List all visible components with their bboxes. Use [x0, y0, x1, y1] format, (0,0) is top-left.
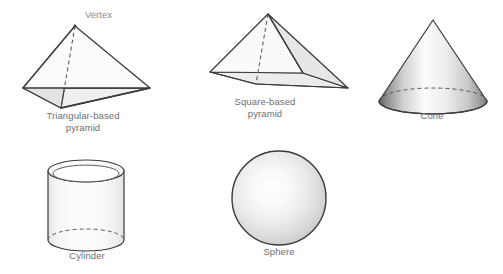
sphere-graphic — [232, 151, 326, 245]
solid-shapes-figure: Vertex Triangular-based pyramid Square-b… — [0, 0, 503, 274]
cone-label: Cone — [372, 110, 492, 122]
triangular-based-pyramid-graphic — [23, 25, 150, 108]
square-based-pyramid-label: Square-based pyramid — [190, 96, 340, 120]
sphere-body — [232, 151, 326, 245]
shapes-canvas — [0, 0, 503, 274]
sphere-label: Sphere — [219, 246, 339, 258]
cone-graphic — [379, 20, 487, 114]
cone-body — [379, 20, 487, 114]
square-based-pyramid-graphic — [210, 14, 348, 88]
cylinder-label: Cylinder — [27, 250, 147, 262]
vertex-annotation-label: Vertex — [85, 9, 112, 20]
cylinder-graphic — [48, 160, 124, 251]
cylinder-top-rim — [53, 165, 119, 182]
cylinder-body — [48, 171, 124, 251]
triangular-pyramid-front-face — [23, 26, 150, 88]
triangular-based-pyramid-label: Triangular-based pyramid — [8, 110, 158, 134]
vertex-marker-icon — [74, 25, 77, 28]
